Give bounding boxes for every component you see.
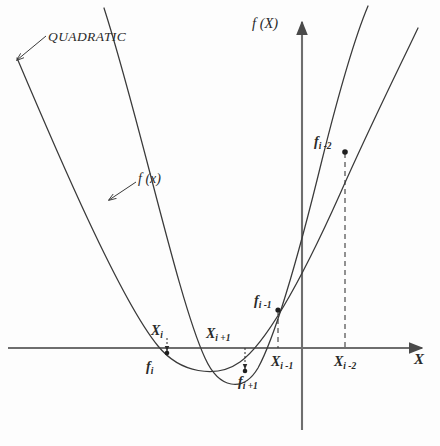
point-label-f-i-minus-2: fi -2: [314, 135, 332, 152]
point-subscript-x-i: i: [160, 330, 163, 340]
curve-label-quadratic: QUADRATIC: [48, 30, 126, 44]
point-label-x-i-minus-1: Xi -1: [271, 355, 293, 372]
point-f-i-1: [275, 307, 280, 312]
point-label-f-i-minus-1: fi -1: [254, 294, 272, 311]
point-label-f-i-plus-1: fi +1: [238, 375, 258, 392]
point-subscript-x-i-minus-2: i -2: [343, 361, 356, 371]
point-subscript-f-i: i: [151, 366, 154, 376]
point-label-f-i: fi: [146, 360, 153, 377]
curve-fx: [104, 6, 368, 384]
point-label-x-i: Xi: [151, 324, 163, 341]
figure-canvas: QUADRATIC f (x) f (X) X Xi fi Xi +1 fi +…: [0, 0, 440, 446]
curve-label-fx: f (x): [138, 172, 161, 186]
point-f-i-2: [342, 149, 348, 155]
diagram-svg: [0, 0, 440, 446]
point-subscript-f-i-minus-2: i -2: [319, 141, 332, 151]
x-axis-label: X: [414, 352, 424, 367]
point-base-x-i-plus-1: X: [206, 326, 215, 341]
point-f-i: [165, 351, 170, 356]
point-base-x-i-minus-2: X: [334, 354, 343, 369]
point-f-i+1: [243, 369, 248, 374]
point-subscript-x-i-minus-1: i -1: [280, 361, 293, 371]
point-base-x-i: X: [151, 323, 160, 338]
point-base-x-i-minus-1: X: [271, 354, 280, 369]
point-subscript-f-i-minus-1: i -1: [259, 300, 272, 310]
leader-arrow-fx: [109, 182, 136, 200]
y-axis-label: f (X): [252, 16, 278, 31]
curve-quadratic: [17, 28, 418, 372]
leader-arrow-quadratic: [17, 36, 46, 60]
point-label-x-i-plus-1: Xi +1: [206, 327, 231, 344]
point-label-x-i-minus-2: Xi -2: [334, 355, 356, 372]
axis-group: [8, 22, 422, 430]
point-subscript-x-i-plus-1: i +1: [215, 333, 230, 343]
point-subscript-f-i-plus-1: i +1: [243, 381, 258, 391]
